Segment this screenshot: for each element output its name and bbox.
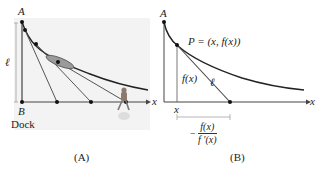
tractrix-dock-diagram [0, 0, 158, 174]
label-length: ℓ [210, 77, 215, 88]
fraction-denominator: f ′(x) [198, 134, 217, 145]
label-point-a: A [160, 8, 167, 19]
fraction-subtangent: − f(x) f ′(x) [198, 122, 217, 145]
tangent-geometry-diagram [158, 0, 316, 174]
label-axis-x: x [310, 96, 315, 107]
label-point-p: P = (x, f(x)) [188, 36, 240, 47]
background-panel [14, 18, 150, 130]
fraction-numerator: f(x) [198, 122, 217, 134]
fraction-sign: − [190, 129, 196, 139]
caption-a: (A) [74, 152, 89, 163]
panel-a: A ℓ B Dock x (A) [0, 0, 158, 174]
label-dock: Dock [11, 119, 35, 130]
label-point-b: B [18, 106, 25, 117]
panel-b: A P = (x, f(x)) f(x) ℓ x x − f(x) f ′(x)… [158, 0, 316, 174]
label-x-tick: x [174, 104, 179, 115]
label-length: ℓ [5, 57, 10, 68]
label-height-fx: f(x) [182, 73, 197, 84]
caption-b: (B) [230, 152, 245, 163]
label-axis-x: x [152, 96, 157, 107]
label-point-a: A [18, 6, 25, 17]
